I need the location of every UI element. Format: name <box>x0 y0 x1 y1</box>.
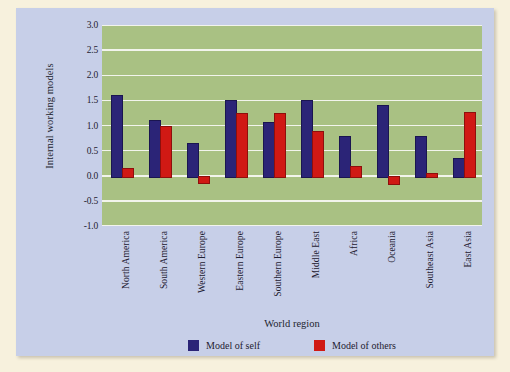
y-tick-label: 0.5 <box>64 146 98 156</box>
x-tick-label-wrap: Africa <box>342 229 356 317</box>
x-tick-label-wrap: Eastern Europe <box>228 229 242 317</box>
bar-model-of-others <box>388 176 400 186</box>
x-tick-label: Southeast Asia <box>425 231 435 289</box>
gridline <box>102 75 482 77</box>
x-tick-label: Eastern Europe <box>235 231 245 291</box>
gridline <box>102 25 482 26</box>
y-tick-label: 3.0 <box>64 20 98 30</box>
bar-model-of-others <box>274 113 286 178</box>
legend-item-model-of-others: Model of others <box>314 340 396 351</box>
chart-page: { "chart_data": { "type": "bar", "title"… <box>0 0 510 372</box>
y-tick-label: 2.5 <box>64 45 98 55</box>
x-tick-label-wrap: Oceania <box>380 229 394 317</box>
y-tick-label: -1.0 <box>64 221 98 231</box>
x-tick-label: Africa <box>349 231 359 256</box>
bar-model-of-self <box>187 143 199 178</box>
x-tick-label-wrap: South America <box>152 229 166 317</box>
x-tick-label-wrap: Middle East <box>304 229 318 317</box>
chart-legend: Model of self Model of others <box>102 336 482 354</box>
x-tick-label-wrap: Southeast Asia <box>418 229 432 317</box>
bar-model-of-others <box>350 166 362 178</box>
x-tick-label: North America <box>121 231 131 289</box>
x-tick-label-wrap: East Asia <box>456 229 470 317</box>
bar-model-of-self <box>111 95 123 177</box>
bar-model-of-self <box>377 105 389 177</box>
y-axis-title: Internal working models <box>44 36 58 196</box>
gridline <box>102 100 482 102</box>
legend-swatch-others-icon <box>314 340 325 351</box>
gridline <box>102 49 482 51</box>
legend-label-self: Model of self <box>206 340 260 351</box>
bar-model-of-others <box>312 131 324 178</box>
bar-model-of-others <box>236 113 248 178</box>
y-tick-label: 0.0 <box>64 171 98 181</box>
x-tick-label-wrap: Southern Europe <box>266 229 280 317</box>
bar-model-of-others <box>160 126 172 178</box>
y-tick-label: 1.0 <box>64 121 98 131</box>
x-tick-label-wrap: Western Europe <box>190 229 204 317</box>
x-axis-tick-labels: North AmericaSouth AmericaWestern Europe… <box>102 229 482 317</box>
bar-model-of-others <box>122 168 134 178</box>
bar-model-of-others <box>198 176 210 184</box>
x-axis-title: World region <box>102 318 482 329</box>
bar-model-of-self <box>415 136 427 178</box>
x-tick-label: East Asia <box>463 231 473 268</box>
x-tick-label: Oceania <box>387 231 397 263</box>
plot-area <box>102 25 482 226</box>
x-tick-label: Southern Europe <box>273 231 283 297</box>
bar-model-of-others <box>464 112 476 178</box>
x-tick-label: Western Europe <box>197 231 207 293</box>
y-tick-label: -0.5 <box>64 196 98 206</box>
bar-model-of-others <box>426 173 438 178</box>
x-tick-label: South America <box>159 231 169 289</box>
x-tick-label: Middle East <box>311 231 321 278</box>
gridline <box>102 225 482 226</box>
y-axis-tick-labels: 3.02.52.01.51.00.50.0-0.5-1.0 <box>62 25 98 226</box>
legend-label-others: Model of others <box>332 340 396 351</box>
gridline <box>102 200 482 202</box>
y-tick-label: 1.5 <box>64 95 98 105</box>
chart-panel: Internal working models 3.02.52.01.51.00… <box>16 8 494 356</box>
y-tick-label: 2.0 <box>64 70 98 80</box>
legend-item-model-of-self: Model of self <box>188 340 260 351</box>
legend-swatch-self-icon <box>188 340 199 351</box>
x-tick-label-wrap: North America <box>114 229 128 317</box>
